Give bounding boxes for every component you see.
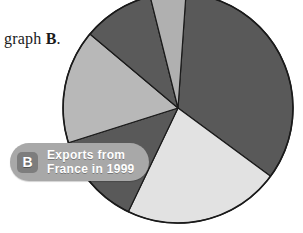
caption-bold-letter: B bbox=[46, 30, 57, 47]
chart-label-callout: B Exports from France in 1999 bbox=[10, 143, 149, 181]
caption-suffix: . bbox=[57, 30, 61, 47]
callout-badge-letter: B bbox=[17, 152, 38, 173]
callout-line-1: Exports from bbox=[47, 148, 135, 162]
page-caption: graph B. bbox=[4, 30, 61, 48]
caption-prefix: graph bbox=[4, 30, 46, 47]
callout-line-2: France in 1999 bbox=[47, 162, 135, 176]
screenshot-root: graph B. B Exports from France in 1999 bbox=[0, 0, 303, 233]
callout-text-block: Exports from France in 1999 bbox=[47, 148, 135, 176]
